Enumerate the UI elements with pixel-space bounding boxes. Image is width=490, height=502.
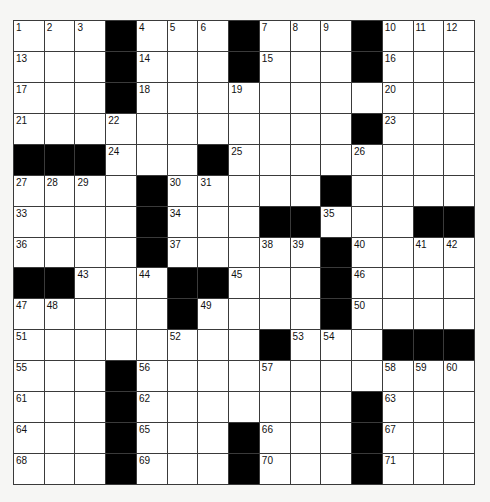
grid-cell[interactable] [321,83,351,113]
grid-cell[interactable]: 7 [260,21,290,51]
grid-cell[interactable]: 42 [444,238,474,268]
grid-cell[interactable] [260,83,290,113]
grid-cell[interactable] [229,114,259,144]
grid-cell[interactable]: 17 [14,83,44,113]
grid-cell[interactable] [321,423,351,453]
grid-cell[interactable]: 12 [444,21,474,51]
grid-cell[interactable] [198,454,228,484]
grid-cell[interactable] [75,114,105,144]
grid-cell[interactable]: 8 [291,21,321,51]
grid-cell[interactable] [444,392,474,422]
grid-cell[interactable]: 37 [168,238,198,268]
grid-cell[interactable] [414,423,444,453]
grid-cell[interactable] [414,114,444,144]
grid-cell[interactable] [45,52,75,82]
grid-cell[interactable]: 33 [14,207,44,237]
grid-cell[interactable] [198,330,228,360]
grid-cell[interactable] [414,392,444,422]
grid-cell[interactable] [383,268,413,298]
grid-cell[interactable] [168,423,198,453]
grid-cell[interactable]: 21 [14,114,44,144]
grid-cell[interactable]: 65 [137,423,167,453]
grid-cell[interactable]: 11 [414,21,444,51]
grid-cell[interactable]: 2 [45,21,75,51]
grid-cell[interactable]: 53 [291,330,321,360]
grid-cell[interactable] [383,299,413,329]
grid-cell[interactable] [291,361,321,391]
grid-cell[interactable] [260,299,290,329]
grid-cell[interactable] [168,52,198,82]
grid-cell[interactable] [106,299,136,329]
grid-cell[interactable] [106,207,136,237]
grid-cell[interactable] [383,207,413,237]
grid-cell[interactable] [383,145,413,175]
grid-cell[interactable] [444,423,474,453]
grid-cell[interactable] [291,423,321,453]
grid-cell[interactable] [75,423,105,453]
grid-cell[interactable] [45,207,75,237]
grid-cell[interactable]: 16 [383,52,413,82]
grid-cell[interactable] [45,392,75,422]
grid-cell[interactable] [291,145,321,175]
grid-cell[interactable] [75,52,105,82]
grid-cell[interactable] [75,207,105,237]
grid-cell[interactable]: 4 [137,21,167,51]
grid-cell[interactable]: 71 [383,454,413,484]
grid-cell[interactable] [291,83,321,113]
grid-cell[interactable] [260,114,290,144]
grid-cell[interactable] [444,114,474,144]
grid-cell[interactable] [168,83,198,113]
grid-cell[interactable] [444,145,474,175]
grid-cell[interactable] [106,176,136,206]
grid-cell[interactable] [106,238,136,268]
grid-cell[interactable]: 44 [137,268,167,298]
grid-cell[interactable] [414,176,444,206]
grid-cell[interactable] [137,299,167,329]
grid-cell[interactable]: 18 [137,83,167,113]
grid-cell[interactable]: 19 [229,83,259,113]
grid-cell[interactable]: 52 [168,330,198,360]
grid-cell[interactable]: 1 [14,21,44,51]
grid-cell[interactable]: 59 [414,361,444,391]
grid-cell[interactable] [444,268,474,298]
grid-cell[interactable]: 39 [291,238,321,268]
grid-cell[interactable]: 69 [137,454,167,484]
grid-cell[interactable]: 15 [260,52,290,82]
grid-cell[interactable] [229,299,259,329]
grid-cell[interactable] [291,392,321,422]
grid-cell[interactable]: 58 [383,361,413,391]
grid-cell[interactable]: 5 [168,21,198,51]
grid-cell[interactable] [352,83,382,113]
grid-cell[interactable] [229,176,259,206]
grid-cell[interactable] [260,392,290,422]
grid-cell[interactable] [260,176,290,206]
grid-cell[interactable] [321,361,351,391]
grid-cell[interactable]: 31 [198,176,228,206]
grid-cell[interactable]: 45 [229,268,259,298]
grid-cell[interactable]: 14 [137,52,167,82]
grid-cell[interactable] [383,238,413,268]
grid-cell[interactable]: 20 [383,83,413,113]
grid-cell[interactable]: 10 [383,21,413,51]
grid-cell[interactable] [75,454,105,484]
grid-cell[interactable] [75,330,105,360]
grid-cell[interactable] [45,423,75,453]
grid-cell[interactable] [168,361,198,391]
grid-cell[interactable] [168,114,198,144]
grid-cell[interactable]: 61 [14,392,44,422]
grid-cell[interactable] [444,52,474,82]
grid-cell[interactable] [75,299,105,329]
grid-cell[interactable] [383,176,413,206]
grid-cell[interactable]: 3 [75,21,105,51]
grid-cell[interactable] [137,145,167,175]
grid-cell[interactable] [352,207,382,237]
grid-cell[interactable] [198,114,228,144]
grid-cell[interactable] [352,361,382,391]
grid-cell[interactable] [414,454,444,484]
grid-cell[interactable] [75,238,105,268]
grid-cell[interactable] [291,299,321,329]
grid-cell[interactable] [45,114,75,144]
grid-cell[interactable]: 54 [321,330,351,360]
grid-cell[interactable] [75,392,105,422]
grid-cell[interactable] [168,145,198,175]
